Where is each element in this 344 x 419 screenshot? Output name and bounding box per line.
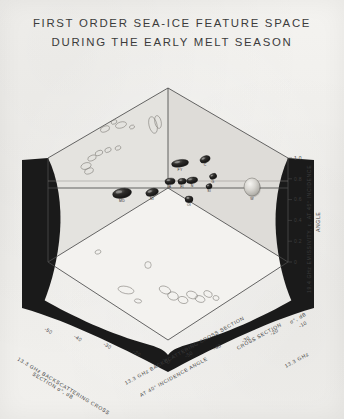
right-axis-tick-label: 0 [294,259,297,265]
cluster-label-fi: FI [180,185,184,189]
cluster-highlight [186,197,189,199]
right-axis-tick-label: 0.4 [294,217,302,223]
cluster-label-n: N [191,184,194,188]
right-axis-title-line2: ANGLE [315,212,321,232]
right-axis-tick-label: 0.6 [294,196,302,202]
wall-projection-ellipse [92,120,102,128]
feature-space-plot: FYCBFINGSIMDNIOIW 1.00.80.60.40.20 19.4 … [0,0,344,419]
cluster-body [244,178,260,196]
right-axis-tick-label: 1.0 [294,155,302,161]
cluster-label-si: SI [207,189,211,193]
cluster-label-b: B [169,185,172,189]
cluster-label-fy: FY [178,168,183,172]
right-axis-title-line1: 19.4 GHz EMISSIVITY, ε, AT 45° INCIDENCE [306,165,312,293]
cluster-label-md: MD [119,199,125,203]
bottomright-axis-title-far: 13.3 GHz [284,351,310,369]
bottomright-axis-tick-label: -10 [298,320,308,329]
figure-page: FIRST ORDER SEA-ICE FEATURE SPACE DURING… [0,0,344,419]
left-axis-tick-label: -50 [43,326,53,335]
wall-projection-ellipse [108,110,115,116]
left-axis-title-line1: 13.3 GHz BACKSCATTERING CROSS [16,356,111,416]
left-axis-tick-label: -40 [73,333,83,342]
right-axis-tick-label: 0.2 [294,238,302,244]
cluster-label-g: G [212,180,215,184]
curtain-left [22,158,61,302]
cluster-label-c: C [204,163,207,167]
cluster-label-oi: OI [187,203,191,207]
cluster-body [185,196,193,202]
cluster-label-w: W [250,197,254,201]
right-axis-tick-label: 0.8 [294,176,302,182]
cluster-label-ni: NI [150,197,154,201]
